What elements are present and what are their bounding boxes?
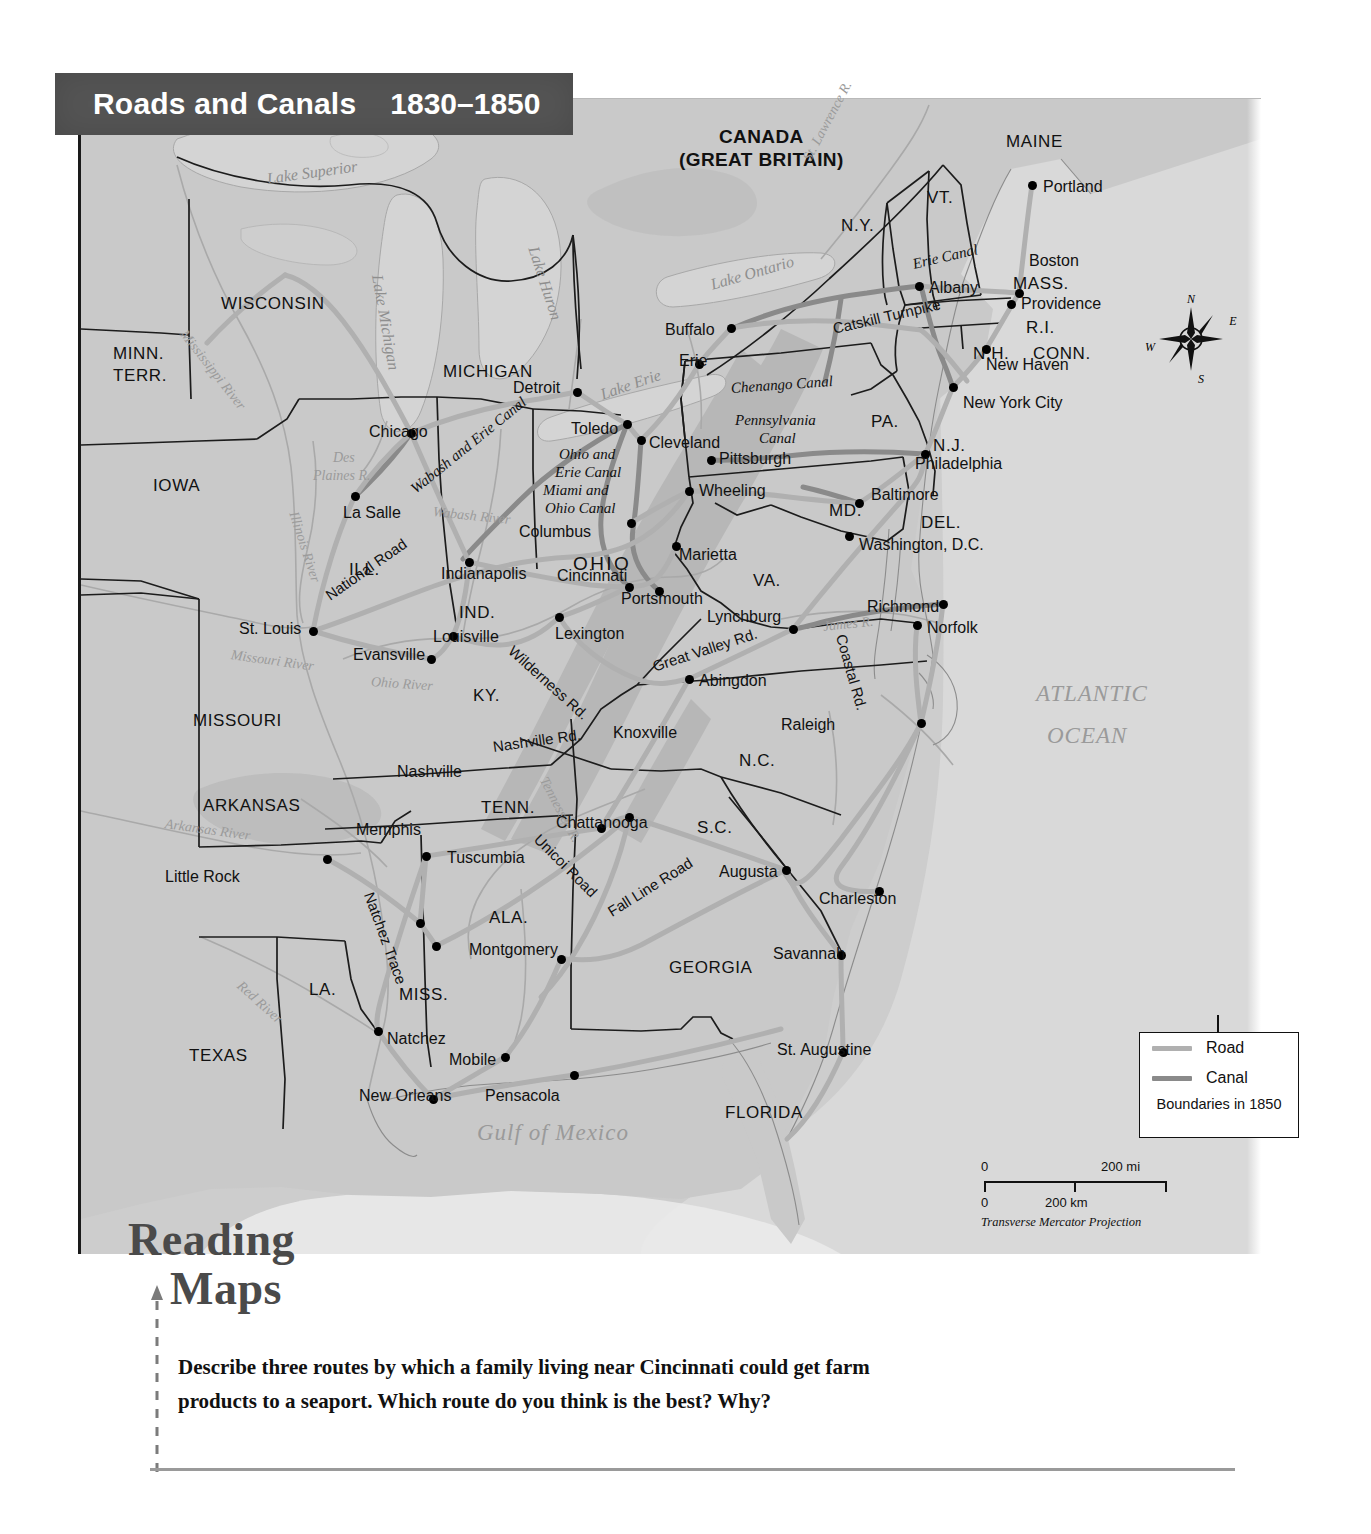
water-label: ATLANTIC (1036, 682, 1148, 705)
state-label: VA. (753, 572, 781, 589)
state-label: WISCONSIN (221, 295, 325, 312)
city-label: Marietta (679, 547, 737, 563)
legend-connector (1217, 1015, 1219, 1033)
city-label: Evansville (353, 647, 425, 663)
city-label: Toledo (571, 421, 618, 437)
water-label: OCEAN (1047, 724, 1127, 747)
route-label: Ohio Canal (545, 501, 615, 516)
scale-mi-zero: 0 (981, 1159, 988, 1174)
state-label: N.Y. (841, 217, 874, 234)
city-label: Chicago (369, 424, 428, 440)
state-label: KY. (473, 687, 500, 704)
city-label: Nashville (397, 764, 462, 780)
city-dot-icon (915, 282, 924, 291)
state-label: ARKANSAS (203, 797, 300, 814)
legend-row-canal: Canal (1140, 1063, 1298, 1093)
city-label: Albany (929, 280, 978, 296)
water-label: Plaines R. (313, 469, 371, 483)
city-label: Richmond (867, 599, 939, 615)
city-label: Natchez (387, 1031, 446, 1047)
city-label: Norfolk (927, 620, 978, 636)
water-label: Gulf of Mexico (477, 1121, 629, 1144)
map-title-years: 1830–1850 (390, 87, 540, 121)
city-label: Tuscumbia (447, 850, 525, 866)
city-dot-icon (949, 383, 958, 392)
state-label: IND. (459, 604, 495, 621)
city-label: Augusta (719, 864, 778, 880)
city-label: Savannah (773, 946, 845, 962)
canal-swatch-icon (1152, 1076, 1192, 1081)
state-label: S.C. (697, 819, 732, 836)
city-dot-icon (685, 487, 694, 496)
city-label: Charleston (819, 891, 896, 907)
city-label: Cleveland (649, 435, 720, 451)
water-label: Des (333, 451, 355, 465)
state-label: MISS. (399, 986, 448, 1003)
city-dot-icon (351, 492, 360, 501)
city-dot-icon (323, 855, 332, 864)
route-label: Ohio and (559, 447, 615, 462)
city-label: Providence (1021, 296, 1101, 312)
city-label: St. Louis (239, 621, 301, 637)
state-label: R.I. (1026, 319, 1055, 336)
state-label: TEXAS (189, 1047, 248, 1064)
route-label: Pennsylvania (735, 413, 816, 428)
compass-rose: N E S W (1143, 289, 1239, 385)
city-label: Louisville (433, 629, 499, 645)
city-dot-icon (685, 675, 694, 684)
city-label: Washington, D.C. (859, 537, 984, 553)
city-dot-icon (627, 519, 636, 528)
city-dot-icon (855, 499, 864, 508)
scale-tick-end (1165, 1181, 1167, 1192)
city-label: Portsmouth (621, 591, 703, 607)
state-label: N.C. (739, 752, 775, 769)
scale-km-mid: 200 km (1045, 1195, 1088, 1210)
city-dot-icon (845, 532, 854, 541)
compass-s-label: S (1198, 372, 1204, 385)
state-label: TERR. (113, 367, 167, 384)
state-label: ALA. (489, 909, 528, 926)
map-page: CANADA(GREAT BRITAIN) MAINEVT.N.H.N.Y.MA… (0, 0, 1371, 1534)
legend-boundaries-note: Boundaries in 1850 (1140, 1096, 1298, 1112)
city-label: Boston (1029, 253, 1079, 269)
city-dot-icon (623, 420, 632, 429)
city-label: Abingdon (699, 673, 767, 689)
state-label: MICHIGAN (443, 363, 533, 380)
city-dot-icon (637, 436, 646, 445)
city-label: Portland (1043, 179, 1103, 195)
city-label: Little Rock (165, 869, 240, 885)
scale-bar: 0 200 mi 0 200 km Transverse Mercator Pr… (981, 1159, 1191, 1233)
city-dot-icon (1028, 181, 1037, 190)
city-label: Erie (679, 353, 707, 369)
city-label: Pensacola (485, 1088, 560, 1104)
state-label: MAINE (1006, 133, 1063, 150)
city-label: New Orleans (359, 1088, 451, 1104)
legend-row-road: Road (1140, 1033, 1298, 1063)
city-dot-icon (727, 324, 736, 333)
legend-canal-label: Canal (1206, 1069, 1248, 1087)
state-label: IOWA (153, 477, 200, 494)
road-swatch-icon (1152, 1046, 1192, 1051)
city-dot-icon (570, 1071, 579, 1080)
route-label: Canal (759, 431, 796, 446)
state-label: DEL. (921, 514, 961, 531)
city-label: La Salle (343, 505, 401, 521)
city-label: Philadelphia (915, 456, 1002, 472)
state-label: PA. (871, 413, 899, 430)
state-label: MISSOURI (193, 712, 282, 729)
reading-maps-question: Describe three routes by which a family … (178, 1350, 938, 1418)
route-label: Miami and (543, 483, 608, 498)
city-label: Pittsburgh (719, 451, 791, 467)
scale-tick-mid (1074, 1181, 1076, 1192)
compass-n-label: N (1186, 292, 1196, 306)
legend-road-label: Road (1206, 1039, 1244, 1057)
city-dot-icon (913, 621, 922, 630)
state-label: VT. (927, 189, 953, 206)
city-label: Knoxville (613, 725, 677, 741)
city-label: Columbus (519, 524, 591, 540)
up-arrow-icon (150, 1285, 164, 1475)
city-dot-icon (789, 625, 798, 634)
city-dot-icon (309, 627, 318, 636)
state-label: TENN. (481, 799, 535, 816)
city-dot-icon (374, 1027, 383, 1036)
